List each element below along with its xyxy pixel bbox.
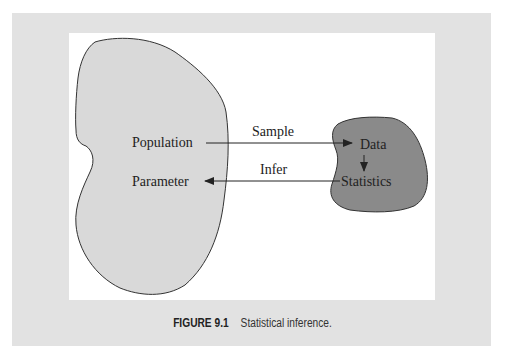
figure-number: FIGURE 9.1: [173, 316, 229, 330]
figure-caption-text: Statistical inference.: [241, 316, 332, 330]
parameter-label: Parameter: [132, 174, 189, 189]
sample-shape: [331, 117, 428, 212]
figure-caption: FIGURE 9.1Statistical inference.: [38, 316, 467, 330]
statistics-label: Statistics: [341, 174, 392, 189]
infer-arrow-label: Infer: [260, 162, 288, 177]
population-label: Population: [132, 135, 193, 150]
sample-arrow-label: Sample: [252, 124, 294, 139]
population-shape: [76, 38, 229, 294]
data-label: Data: [360, 137, 387, 152]
statistical-inference-diagram: Population Parameter Data Statistics Sam…: [0, 0, 505, 356]
